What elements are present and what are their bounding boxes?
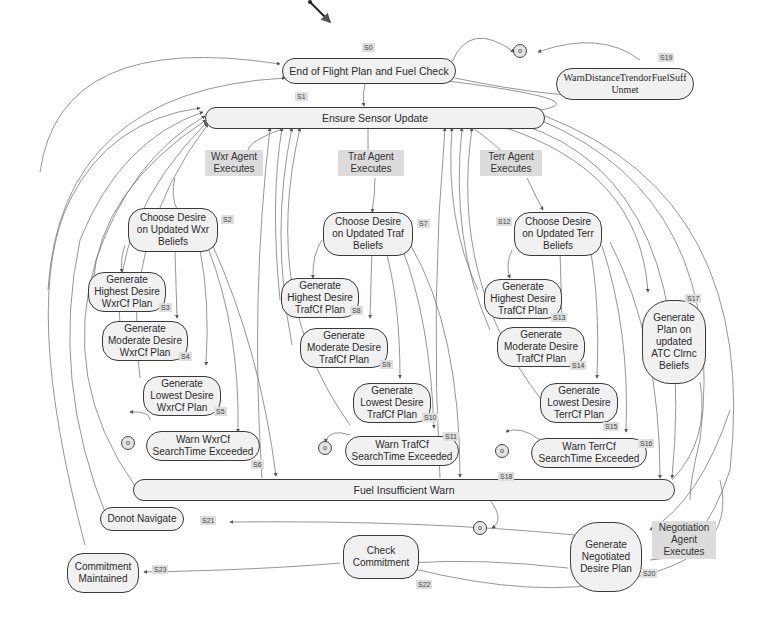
state-label: Choose Desire on Updated Terr Beliefs xyxy=(519,216,597,252)
terr-agent-label: Terr Agent Executes xyxy=(480,150,542,176)
state-label: Choose Desire on Updated Wxr Beliefs xyxy=(133,212,213,248)
state-id-label: S14 xyxy=(570,361,586,370)
wxr-agent-label: Wxr Agent Executes xyxy=(205,150,263,176)
state-label: Ensure Sensor Update xyxy=(322,112,428,124)
traf-agent-label: Traf Agent Executes xyxy=(338,150,404,176)
state-id-label: S9 xyxy=(380,360,393,369)
state-choose-desire-wxr[interactable]: Choose Desire on Updated Wxr Beliefs xyxy=(128,208,218,252)
state-warn-trafcf[interactable]: Warn TrafCf SearchTime Exceeded xyxy=(345,436,459,466)
state-label: Generate Lowest Desire TrafCf Plan xyxy=(358,385,426,421)
state-generate-negotiated-plan[interactable]: Generate Negotiated Desire Plan xyxy=(570,522,642,592)
state-id-label: S21 xyxy=(200,516,216,525)
state-label: WarnDistanceTrendorFuelSuff Unmet xyxy=(561,72,689,96)
state-lowest-desire-terr[interactable]: Generate Lowest Desire TerrCf Plan xyxy=(540,383,618,423)
state-id-label: S17 xyxy=(685,294,701,303)
state-id-label: S13 xyxy=(551,313,567,322)
state-label: Warn WxrCf SearchTime Exceeded xyxy=(151,434,255,458)
state-moderate-desire-traf[interactable]: Generate Moderate Desire TrafCf Plan xyxy=(300,328,388,368)
state-id-label: S18 xyxy=(498,472,514,481)
state-label: Commitment Maintained xyxy=(72,561,134,585)
state-warn-distance-trend[interactable]: WarnDistanceTrendorFuelSuff Unmet xyxy=(556,68,694,100)
state-label: Generate Moderate Desire TrafCf Plan xyxy=(305,330,383,366)
state-id-label: S5 xyxy=(214,407,227,416)
state-id-label: S7 xyxy=(417,219,430,228)
state-id-label: S22 xyxy=(416,580,432,589)
state-label: Generate Highest Desire WxrCf Plan xyxy=(93,274,161,310)
terminal-node: o xyxy=(121,436,135,450)
state-id-label: S16 xyxy=(638,439,654,448)
state-label: Generate Highest Desire TrafCf Plan xyxy=(286,280,354,316)
state-highest-desire-wxr[interactable]: Generate Highest Desire WxrCf Plan xyxy=(88,272,166,312)
state-moderate-desire-wxr[interactable]: Generate Moderate Desire WxrCf Plan xyxy=(102,321,188,361)
terminal-node: o xyxy=(495,444,509,458)
negotiation-agent-label: Negotiation Agent Executes xyxy=(652,521,716,559)
state-check-commitment[interactable]: Check Commitment xyxy=(343,535,419,579)
state-label: Check Commitment xyxy=(348,545,414,569)
state-id-label: S20 xyxy=(641,569,657,578)
state-label: Donot Navigate xyxy=(108,513,177,525)
state-choose-desire-traf[interactable]: Choose Desire on Updated Traf Beliefs xyxy=(323,212,413,256)
state-id-label: S1 xyxy=(295,92,308,101)
state-donot-navigate[interactable]: Donot Navigate xyxy=(100,507,184,531)
state-label: Generate Negotiated Desire Plan xyxy=(575,539,637,575)
state-label: Fuel Insufficient Warn xyxy=(354,484,455,496)
terminal-node: o xyxy=(513,44,527,58)
state-warn-wxrcf[interactable]: Warn WxrCf SearchTime Exceeded xyxy=(146,431,260,461)
state-ensure-sensor-update[interactable]: Ensure Sensor Update xyxy=(205,107,545,129)
state-choose-desire-terr[interactable]: Choose Desire on Updated Terr Beliefs xyxy=(514,212,602,256)
state-end-of-flight-plan[interactable]: End of Flight Plan and Fuel Check xyxy=(282,58,456,84)
state-label: Generate Lowest Desire WxrCf Plan xyxy=(148,378,216,414)
state-warn-terrcf[interactable]: Warn TerrCf SearchTime Exceeded xyxy=(531,438,647,468)
state-fuel-insufficient-warn[interactable]: Fuel Insufficient Warn xyxy=(133,479,675,501)
state-id-label: S15 xyxy=(603,422,619,431)
state-commitment-maintained[interactable]: Commitment Maintained xyxy=(67,553,139,593)
state-label: Generate Plan on updated ATC Clrnc Belie… xyxy=(647,312,701,372)
state-id-label: S11 xyxy=(443,432,459,441)
state-label: End of Flight Plan and Fuel Check xyxy=(289,65,448,77)
state-id-label: S8 xyxy=(350,306,363,315)
state-label: Generate Lowest Desire TerrCf Plan xyxy=(545,385,613,421)
terminal-node: o xyxy=(473,521,487,535)
state-id-label: S23 xyxy=(152,565,168,574)
terminal-node: o xyxy=(318,441,332,455)
state-highest-desire-traf[interactable]: Generate Highest Desire TrafCf Plan xyxy=(281,278,359,318)
state-lowest-desire-wxr[interactable]: Generate Lowest Desire WxrCf Plan xyxy=(143,376,221,416)
state-label: Generate Highest Desire TrafCf Plan xyxy=(489,281,557,317)
state-id-label: S3 xyxy=(159,303,172,312)
state-id-label: S4 xyxy=(179,352,192,361)
state-label: Warn TerrCf SearchTime Exceeded xyxy=(536,441,642,465)
state-generate-plan-atc[interactable]: Generate Plan on updated ATC Clrnc Belie… xyxy=(642,300,706,384)
state-label: Generate Moderate Desire TrafCf Plan xyxy=(502,329,580,365)
state-id-label: S12 xyxy=(496,217,512,226)
state-id-label: S2 xyxy=(221,215,234,224)
state-label: Generate Moderate Desire WxrCf Plan xyxy=(107,323,183,359)
state-label: Warn TrafCf SearchTime Exceeded xyxy=(350,439,454,463)
state-id-label: S0 xyxy=(362,43,375,52)
state-id-label: S19 xyxy=(658,53,674,62)
state-lowest-desire-traf[interactable]: Generate Lowest Desire TrafCf Plan xyxy=(353,383,431,423)
state-label: Choose Desire on Updated Traf Beliefs xyxy=(328,216,408,252)
initial-state-arrow xyxy=(310,2,330,22)
state-id-label: S10 xyxy=(422,413,438,422)
state-id-label: S6 xyxy=(251,460,264,469)
